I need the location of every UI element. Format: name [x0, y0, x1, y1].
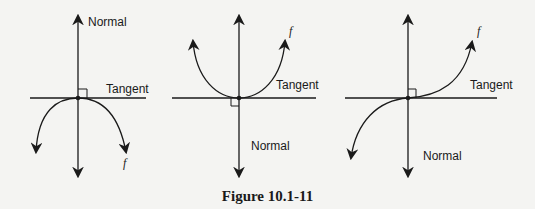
point-of-tangency	[237, 96, 242, 101]
curve-f	[351, 42, 472, 158]
point-of-tangency	[406, 96, 411, 101]
tangent-label: Tangent	[106, 82, 149, 96]
tangent-label: Tangent	[276, 78, 319, 92]
normal-label: Normal	[251, 139, 290, 153]
function-label: f	[477, 24, 482, 38]
point-of-tangency	[76, 96, 81, 101]
panel-1: Normal Tangent f	[30, 15, 149, 176]
figure-diagram: Normal Tangent f f Tangent Normal f Tang…	[0, 0, 535, 209]
normal-label: Normal	[88, 15, 127, 29]
function-label: f	[289, 24, 294, 38]
panel-2: f Tangent Normal	[172, 16, 319, 176]
figure-caption: Figure 10.1-11	[0, 188, 535, 205]
normal-label: Normal	[423, 149, 462, 163]
panel-3: f Tangent Normal	[345, 16, 513, 176]
curve-f	[36, 98, 126, 152]
tangent-label: Tangent	[470, 78, 513, 92]
function-label: f	[123, 156, 128, 170]
